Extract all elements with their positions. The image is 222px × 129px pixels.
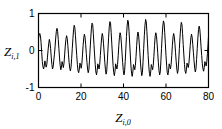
y-tick-label: -1 (26, 82, 35, 93)
data-series-group (39, 19, 209, 76)
x-axis-label-subscript: i,0 (123, 118, 131, 127)
chart-svg: 020406080 -101 Zi,0 Zi,1 (0, 0, 222, 129)
y-tick-label: 0 (29, 45, 35, 56)
trajectory-line (39, 19, 209, 76)
x-tick-label: 40 (118, 91, 130, 102)
x-tick-label: 80 (203, 91, 215, 102)
figure-container: 020406080 -101 Zi,0 Zi,1 (0, 0, 222, 129)
x-tick-label: 20 (75, 91, 87, 102)
x-tick-label: 0 (36, 91, 42, 102)
y-axis-label: Zi,1 (4, 44, 19, 61)
plot-frame (39, 14, 209, 88)
y-axis-tick-labels: -101 (26, 8, 35, 93)
x-axis-label: Zi,0 (115, 110, 130, 127)
x-tick-label: 60 (160, 91, 172, 102)
y-axis-ticks-right (205, 14, 209, 88)
y-axis-label-subscript: i,1 (11, 52, 19, 61)
y-tick-label: 1 (29, 8, 35, 19)
x-axis-tick-labels: 020406080 (36, 91, 215, 102)
